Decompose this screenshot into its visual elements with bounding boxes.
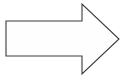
arrow-right-icon — [0, 0, 126, 77]
arrow-canvas — [0, 0, 126, 77]
